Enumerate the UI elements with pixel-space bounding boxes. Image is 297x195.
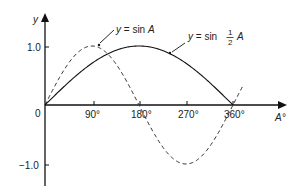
y-tick-neg1: −1.0 xyxy=(19,160,39,171)
x-tick-270: 270° xyxy=(178,109,199,120)
svg-text:A: A xyxy=(236,31,244,42)
leader-sin-half-a xyxy=(172,43,185,52)
x-tick-360: 360° xyxy=(224,109,245,120)
label-sin-half-a: y = sin 1 2 A xyxy=(187,28,244,47)
fraction-denominator: 2 xyxy=(228,38,233,47)
axes xyxy=(45,20,280,186)
leader-dot-sin-half-a xyxy=(169,52,171,54)
fraction-numerator: 1 xyxy=(228,28,233,37)
origin-label: 0 xyxy=(35,108,41,119)
y-axis-arrow-icon xyxy=(41,13,49,22)
x-axis-arrow-icon xyxy=(278,101,287,109)
label-sin-a: y = sin A xyxy=(115,24,155,35)
sine-chart: 0 90° 180° 270° 360° 1.0 −1.0 y A° y = s… xyxy=(0,0,297,195)
y-axis-label: y xyxy=(32,14,39,25)
x-axis-label: A° xyxy=(274,112,286,123)
y-tick-1: 1.0 xyxy=(27,42,41,53)
leader-dot-sin-a xyxy=(98,44,100,46)
svg-text:y = sin: y = sin xyxy=(187,31,217,42)
leader-sin-a xyxy=(100,30,114,43)
curve-sin-half-a xyxy=(45,46,233,105)
x-tick-90: 90° xyxy=(85,109,100,120)
